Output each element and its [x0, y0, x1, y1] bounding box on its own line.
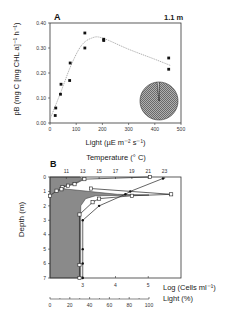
cell-count-point	[78, 213, 81, 216]
temperature-tick-label: 23	[162, 168, 168, 174]
depth-tick-label: 1	[43, 188, 46, 194]
temperature-point	[82, 219, 84, 221]
cell-count-point	[66, 184, 69, 187]
depth-tick-label: 0	[43, 174, 46, 180]
cell-count-point	[91, 201, 94, 204]
depth-tick-label: 4	[43, 231, 46, 237]
x-tick-label: 500	[177, 126, 186, 132]
cell-count-point	[73, 183, 76, 186]
panel-a: A 1.1 m 0.000.100.200.300.40 01002003004…	[12, 12, 185, 147]
depth-tick-label: 6	[43, 260, 46, 266]
light-tick-label: 100	[145, 302, 154, 308]
temperature-point	[82, 262, 84, 264]
x-tick-label: 300	[124, 126, 133, 132]
light-tick-label: 20	[67, 302, 73, 308]
figure: A 1.1 m 0.000.100.200.300.40 01002003004…	[0, 0, 231, 311]
panel-b-label: B	[50, 159, 57, 169]
depth-tick-label: 5	[43, 246, 46, 252]
light-profile-shade	[50, 177, 149, 278]
cell-count-point	[98, 197, 101, 200]
data-point	[167, 57, 170, 60]
y-tick-label: 0.10	[36, 95, 46, 101]
cells-tick-label: 4	[114, 282, 117, 288]
panel-a-x-label: Light (µE m⁻² s⁻¹)	[86, 138, 146, 147]
cell-count-point	[89, 187, 92, 190]
depth-annotation: 1.1 m	[164, 13, 184, 22]
data-point	[83, 47, 86, 50]
x-tick-label: 0	[49, 126, 52, 132]
panel-a-label: A	[54, 12, 61, 22]
temperature-tick-label: 13	[80, 168, 86, 174]
data-point	[59, 93, 62, 96]
light-tick-label: 0	[49, 302, 52, 308]
light-tick-label: 80	[126, 302, 132, 308]
temperature-tick-label: 11	[64, 168, 69, 174]
cell-count-point	[148, 175, 151, 178]
data-point	[54, 114, 57, 117]
depth-tick-label: 7	[43, 275, 46, 281]
temperature-point	[82, 248, 84, 250]
cells-tick-label: 5	[147, 282, 150, 288]
data-point	[167, 68, 170, 71]
x-tick-label: 100	[72, 126, 81, 132]
panel-a-y-label: pB (mg C [mg CHL a]⁻¹ h⁻¹)	[12, 22, 21, 116]
temperature-tick-label: 15	[96, 168, 102, 174]
cell-count-point	[78, 276, 81, 279]
data-point	[68, 79, 71, 82]
temperature-point	[98, 205, 100, 207]
depth-tick-label: 2	[43, 203, 46, 209]
cell-count-point	[55, 189, 58, 192]
cell-count-point	[170, 193, 173, 196]
cell-count-point	[130, 194, 133, 197]
cell-count-point	[78, 263, 81, 266]
depth-axis-label: Depth (m)	[17, 201, 26, 237]
data-point	[69, 62, 72, 65]
data-point	[54, 107, 57, 110]
cells-tick-label: 3	[81, 282, 84, 288]
x-tick-label: 200	[98, 126, 107, 132]
temperature-tick-label: 21	[145, 168, 151, 174]
cell-count-point	[48, 194, 51, 197]
cell-count-point	[60, 188, 63, 191]
light-axis-label: Light (%)	[163, 294, 194, 303]
cell-count-point	[83, 178, 86, 181]
temperature-tick-label: 19	[129, 168, 135, 174]
temperature-point	[124, 193, 126, 195]
panel-b: Temperature (° C) B 01234567 11131517192…	[17, 153, 216, 308]
data-point	[60, 83, 63, 86]
temperature-tick-label: 17	[113, 168, 119, 174]
depth-tick-label: 3	[43, 217, 46, 223]
light-tick-label: 60	[107, 302, 113, 308]
temperature-point	[162, 177, 164, 179]
y-tick-label: 0.30	[36, 45, 46, 51]
cells-axis-label: Log (Cells ml⁻¹)	[163, 283, 216, 292]
y-tick-label: 0.20	[36, 70, 46, 76]
y-tick-label: 0.00	[36, 120, 46, 126]
temperature-axis-label: Temperature (° C)	[86, 153, 146, 162]
y-tick-label: 0.40	[36, 20, 46, 26]
light-tick-label: 40	[87, 302, 93, 308]
data-point	[83, 32, 86, 35]
x-tick-label: 400	[151, 126, 160, 132]
temperature-point	[82, 277, 84, 279]
data-point	[102, 39, 105, 42]
